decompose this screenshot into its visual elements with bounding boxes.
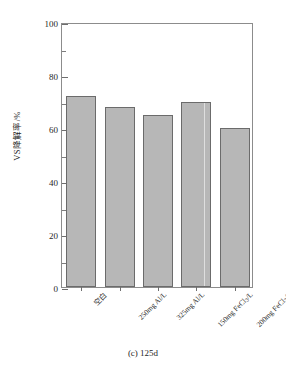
plot-frame: 020406080100	[61, 23, 253, 288]
bar	[220, 128, 250, 287]
y-tick-minor	[62, 157, 66, 158]
figure-caption: (c) 125d	[0, 348, 286, 358]
y-tick-mark	[62, 77, 68, 78]
y-tick-label: 20	[49, 231, 58, 241]
x-axis-label: 空白	[91, 290, 109, 308]
x-axis-label: 200mg FeCl3/L	[254, 290, 286, 329]
bar	[105, 107, 135, 287]
y-tick-minor	[62, 263, 66, 264]
y-tick-label: 40	[49, 178, 58, 188]
x-axis-label: 150mg FeCl3/L	[216, 290, 255, 329]
bar-highlight-line	[204, 103, 205, 287]
y-tick-label: 100	[45, 19, 59, 29]
y-tick-minor	[62, 104, 66, 105]
x-axis-label: 325mg Al/L	[175, 290, 207, 322]
bar	[143, 115, 173, 287]
x-axis-category-labels: 空白250mg Al/L325mg Al/L150mg FeCl3/L200mg…	[61, 290, 253, 342]
x-axis-label: 250mg Al/L	[136, 290, 168, 322]
y-tick-mark	[62, 24, 68, 25]
y-tick-minor	[62, 210, 66, 211]
bar	[66, 96, 96, 287]
plot-area: 020406080100	[62, 24, 252, 287]
y-tick-minor	[62, 51, 66, 52]
y-axis-title: VS降解率/%	[10, 96, 22, 176]
bar	[181, 102, 211, 288]
figure-bar-chart: VS降解率/% 020406080100 空白250mg Al/L325mg A…	[0, 0, 286, 374]
y-tick-label: 80	[49, 72, 58, 82]
y-tick-label: 0	[54, 284, 59, 294]
y-tick-label: 60	[49, 125, 58, 135]
